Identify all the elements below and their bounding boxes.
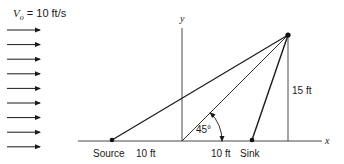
potential-flow-diagram: Vo = 10 ft/s x y 45° Source 10 ft 10 ft … (0, 0, 344, 164)
y-axis-label: y (179, 13, 185, 24)
sink-point (250, 138, 255, 143)
source-point (110, 138, 115, 143)
angle-label: 45° (196, 124, 211, 135)
height-label: 15 ft (292, 85, 312, 96)
source-distance-label: 10 ft (136, 148, 156, 159)
field-point (285, 32, 290, 37)
source-label: Source (93, 148, 125, 159)
angle-arc (210, 113, 222, 141)
freestream-velocity-label: Vo = 10 ft/s (13, 7, 67, 22)
sink-label: Sink (240, 148, 260, 159)
sink-distance-label: 10 ft (211, 148, 231, 159)
sink-to-point-line (252, 35, 288, 140)
x-axis-label: x (324, 135, 330, 146)
freestream-arrows (7, 30, 40, 147)
